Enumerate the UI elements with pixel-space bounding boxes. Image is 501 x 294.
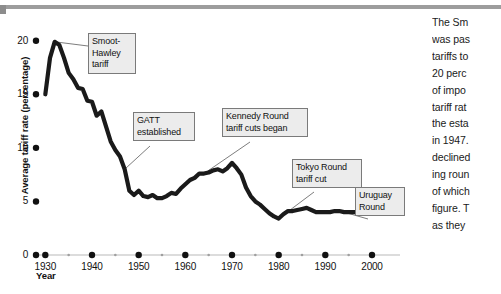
y-tick-label-5: 5 <box>6 195 28 206</box>
annotation-smoot-hawley: Smoot- Hawley tariff <box>88 33 136 74</box>
side-text-line: as they <box>432 217 501 234</box>
y-tick-dot <box>33 198 39 204</box>
y-tick-dot <box>33 145 39 151</box>
x-tick-dot <box>275 252 281 258</box>
x-tick-label-1950: 1950 <box>122 261 156 272</box>
x-minor-tick-dot <box>347 254 350 257</box>
x-tick-dot <box>182 252 188 258</box>
x-tick-dot <box>89 252 95 258</box>
y-axis-major-ticks <box>33 38 39 259</box>
y-tick-dot <box>33 252 39 258</box>
side-text-line: declined <box>432 149 501 166</box>
x-tick-dot <box>135 252 141 258</box>
side-text-line: of impo <box>432 82 501 99</box>
side-text-line: tariff rat <box>432 99 501 116</box>
annotation-tokyo-round: Tokyo Round tariff cut <box>292 159 362 188</box>
side-text-line: The Sm <box>432 14 501 31</box>
y-tick-label-10: 10 <box>6 142 28 153</box>
side-text-line: 20 perc <box>432 65 501 82</box>
chart-plot-svg <box>0 12 404 294</box>
y-tick-dot <box>33 91 39 97</box>
annotation-kennedy-round: Kennedy Round tariff cuts began <box>222 108 308 137</box>
side-description-text: The Smwas pastariffs to20 percof impotar… <box>432 14 501 254</box>
y-tick-label-15: 15 <box>6 88 28 99</box>
x-minor-tick-dot <box>67 254 70 257</box>
x-tick-label-1980: 1980 <box>262 261 296 272</box>
x-tick-dot <box>322 252 328 258</box>
side-text-line: in 1947. <box>432 132 501 149</box>
y-axis-title: Average tariff rate (percentage) <box>19 46 30 206</box>
top-divider-rule <box>0 5 501 9</box>
figure-page: Average tariff rate (percentage) 0510152… <box>0 0 501 294</box>
y-tick-label-20: 20 <box>6 35 28 46</box>
x-minor-tick-dot <box>301 254 304 257</box>
side-text-line: ing roun <box>432 166 501 183</box>
x-tick-label-1990: 1990 <box>308 261 342 272</box>
y-tick-dot <box>33 38 39 44</box>
x-minor-tick-dot <box>207 254 210 257</box>
annotation-uruguay-round: Uruguay Round <box>355 187 405 216</box>
x-tick-label-1970: 1970 <box>215 261 249 272</box>
x-tick-label-1940: 1940 <box>75 261 109 272</box>
x-axis-title: Year <box>36 270 56 281</box>
x-tick-label-2000: 2000 <box>355 261 389 272</box>
x-minor-tick-dot <box>254 254 257 257</box>
side-text-line: of which <box>432 183 501 200</box>
side-text-line: figure. T <box>432 200 501 217</box>
x-minor-tick-dot <box>161 254 164 257</box>
side-text-line: tariffs to <box>432 48 501 65</box>
tariff-line-chart: Average tariff rate (percentage) 0510152… <box>0 12 404 294</box>
leader-line-gatt-established <box>125 146 150 169</box>
side-text-line: was pas <box>432 31 501 48</box>
x-minor-tick-dot <box>114 254 117 257</box>
y-tick-label-0: 0 <box>6 249 28 260</box>
x-tick-label-1960: 1960 <box>168 261 202 272</box>
annotation-gatt-established: GATT established <box>133 112 195 141</box>
x-tick-dot <box>229 252 235 258</box>
side-text-line: the esta <box>432 115 501 132</box>
x-tick-dot <box>369 252 375 258</box>
x-tick-dot <box>42 252 48 258</box>
